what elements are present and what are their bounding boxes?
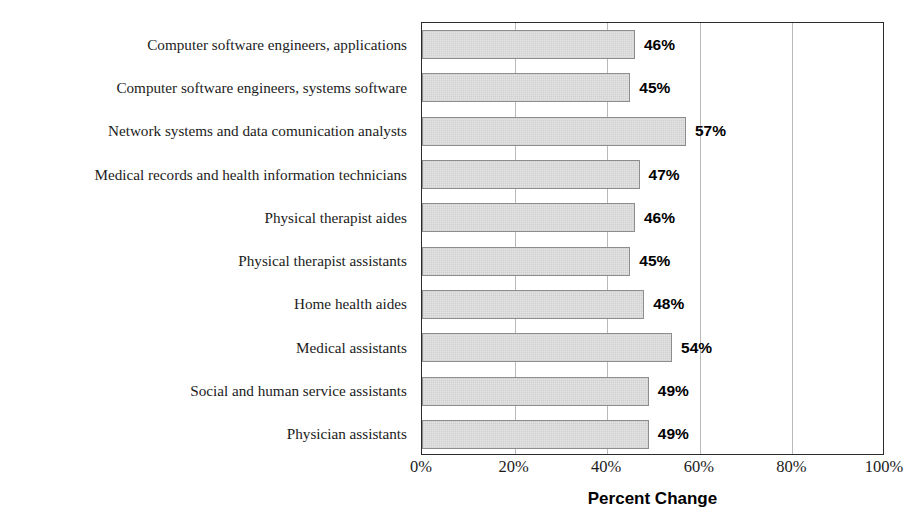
bar [422, 247, 630, 276]
bar-value-label: 49% [658, 383, 689, 399]
bar-value-label: 49% [658, 426, 689, 442]
category-label: Physician assistants [0, 426, 407, 441]
category-label: Home health aides [0, 296, 407, 311]
bar [422, 290, 644, 319]
x-tick-40: 40% [591, 459, 621, 476]
bar [422, 420, 649, 449]
x-tick-20: 20% [498, 459, 528, 476]
category-label: Social and human service assistants [0, 383, 407, 398]
bar-value-label: 45% [639, 253, 670, 269]
gridline-60 [700, 23, 701, 454]
plot-area: 46%45%57%47%46%45%48%54%49%49% [421, 22, 884, 455]
bar-value-label: 54% [681, 340, 712, 356]
bar-value-label: 46% [644, 210, 675, 226]
bar [422, 333, 672, 362]
bar [422, 30, 635, 59]
bar [422, 73, 630, 102]
bar [422, 377, 649, 406]
chart-title-cropped [0, 0, 917, 9]
bar-value-label: 47% [649, 167, 680, 183]
bar-value-label: 48% [653, 296, 684, 312]
x-tick-0: 0% [410, 459, 432, 476]
x-axis-tick-labels: 0%20%40%60%80%100% [0, 459, 917, 483]
bar [422, 160, 640, 189]
x-tick-80: 80% [776, 459, 806, 476]
x-axis-title: Percent Change [421, 490, 884, 507]
x-tick-100: 100% [865, 459, 904, 476]
gridline-80 [792, 23, 793, 454]
bar [422, 117, 686, 146]
category-axis-labels: Computer software engineers, application… [0, 22, 414, 455]
bar-value-label: 46% [644, 37, 675, 53]
category-label: Medical records and health information t… [0, 167, 407, 182]
category-label: Physical therapist aides [0, 210, 407, 225]
category-label: Computer software engineers, systems sof… [0, 80, 407, 95]
bar-value-label: 45% [639, 80, 670, 96]
category-label: Network systems and data comunication an… [0, 123, 407, 138]
bar [422, 203, 635, 232]
x-tick-60: 60% [684, 459, 714, 476]
category-label: Medical assistants [0, 340, 407, 355]
bar-value-label: 57% [695, 123, 726, 139]
category-label: Computer software engineers, application… [0, 37, 407, 52]
category-label: Physical therapist assistants [0, 253, 407, 268]
